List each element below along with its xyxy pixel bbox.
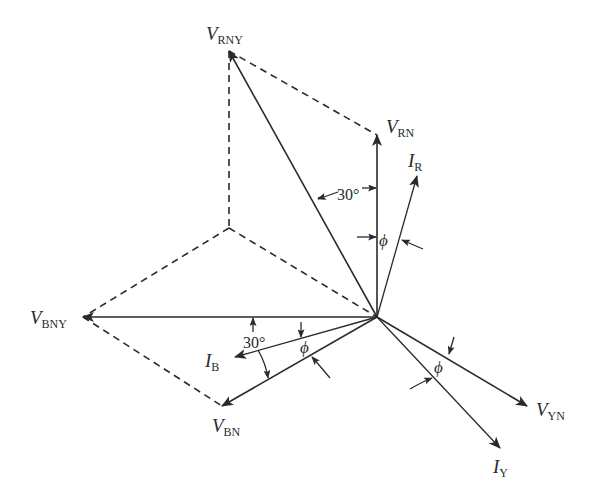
construction-lines bbox=[83, 51, 377, 406]
angle-arrow-30-left bbox=[318, 192, 338, 199]
dashed-line-bny-to-bn bbox=[83, 317, 222, 406]
label-v-bn: VBN bbox=[212, 415, 241, 439]
phasor-v-bn bbox=[222, 317, 377, 406]
angle-labels: 30° ϕ 30° ϕ ϕ bbox=[243, 186, 443, 377]
phasor-labels: VRN VYN VBN VRNY VBNY IR IY IB bbox=[30, 23, 565, 480]
phasor-diagram: VRN VYN VBN VRNY VBNY IR IY IB 30° ϕ 30°… bbox=[0, 0, 596, 499]
angle-arrow-phi-y-up bbox=[410, 378, 432, 389]
angle-arrow-phi-r-right bbox=[402, 240, 423, 249]
label-i-y: IY bbox=[492, 456, 508, 480]
angle-arrow-phi-y-down bbox=[449, 337, 454, 354]
dashed-line-center-to-bny bbox=[83, 228, 229, 317]
phasor-arrows bbox=[83, 51, 527, 448]
label-v-yn: VYN bbox=[536, 399, 565, 423]
angle-label-phi-b: ϕ bbox=[300, 338, 309, 357]
angle-label-30-top: 30° bbox=[337, 186, 359, 203]
label-i-r: IR bbox=[407, 150, 422, 174]
dashed-line-center-to-origin bbox=[229, 228, 377, 317]
angle-indicators bbox=[253, 188, 454, 389]
phasor-v-yn bbox=[377, 317, 527, 406]
phasor-i-y bbox=[377, 317, 500, 448]
angle-label-phi-r: ϕ bbox=[379, 231, 388, 250]
angle-label-phi-y: ϕ bbox=[434, 358, 443, 377]
label-v-rny: VRNY bbox=[206, 23, 243, 47]
angle-arrow-phi-b-up bbox=[312, 357, 330, 378]
dashed-line-rny-to-rn bbox=[229, 51, 377, 135]
label-v-bny: VBNY bbox=[30, 307, 67, 331]
angle-arrow-30b-down bbox=[258, 350, 268, 378]
phasor-v-rny bbox=[229, 51, 377, 317]
angle-label-30-left: 30° bbox=[243, 334, 265, 351]
label-i-b: IB bbox=[204, 350, 219, 374]
label-v-rn: VRN bbox=[386, 116, 415, 140]
